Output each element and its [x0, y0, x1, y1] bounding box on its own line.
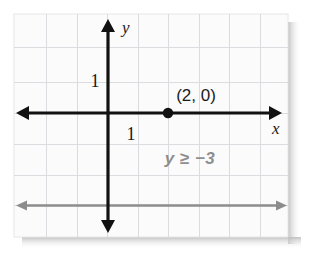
point-coordinate-label: (2, 0) — [176, 86, 216, 105]
plotted-point-dot — [163, 108, 173, 118]
inequality-label: y ≥ −3 — [164, 149, 216, 168]
x-axis-label: x — [271, 119, 280, 138]
y-unit-tick-label: 1 — [91, 71, 100, 91]
x-unit-tick-label: 1 — [127, 124, 136, 144]
y-axis-label: y — [120, 18, 130, 37]
coordinate-plane-graphic: y x 1 1 (2, 0) y ≥ −3 — [0, 0, 312, 257]
coordinate-plane-figure: y x 1 1 (2, 0) y ≥ −3 — [0, 0, 312, 257]
